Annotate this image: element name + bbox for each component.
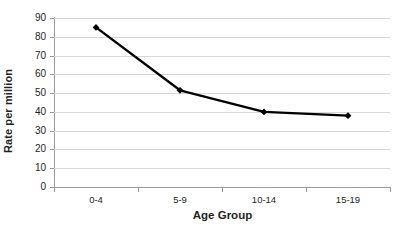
x-axis-tick [222, 188, 223, 192]
x-axis-tick [306, 188, 307, 192]
x-axis-tick [138, 188, 139, 192]
series-line [96, 27, 348, 115]
data-point-marker [261, 108, 268, 115]
x-axis-tick [54, 188, 55, 192]
x-axis-tick-label: 15-19 [306, 194, 390, 205]
data-series-line [54, 18, 390, 187]
y-axis-tick-label: 90 [12, 13, 46, 23]
x-axis-tick-label: 0-4 [54, 194, 138, 205]
y-axis-tick-label: 10 [12, 163, 46, 173]
x-axis-tick [390, 188, 391, 192]
x-axis-title: Age Group [54, 209, 391, 221]
y-axis-tick-label: 60 [12, 69, 46, 79]
y-axis-tick-label: 0 [12, 182, 46, 192]
y-axis-tick-label: 50 [12, 88, 46, 98]
x-axis-tick-label: 5-9 [138, 194, 222, 205]
x-axis-tick-label: 10-14 [222, 194, 306, 205]
y-axis-tick-label: 20 [12, 144, 46, 154]
line-chart: Rate per million 0102030405060708090 0-4… [0, 0, 402, 238]
data-point-marker [345, 112, 352, 119]
y-axis-tick-label: 80 [12, 32, 46, 42]
y-axis-tick-label: 70 [12, 51, 46, 61]
y-axis-tick-label: 40 [12, 107, 46, 117]
y-axis-tick-label: 30 [12, 126, 46, 136]
